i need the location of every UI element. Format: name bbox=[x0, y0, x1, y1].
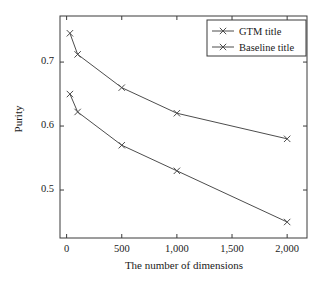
x-tick-label-4: 2,000 bbox=[267, 243, 307, 254]
y-tick-label-1: 0.6 bbox=[24, 119, 54, 130]
x-tick-label-1: 500 bbox=[102, 243, 142, 254]
y-axis-label: Purity bbox=[12, 89, 24, 149]
legend-label-0: GTM title bbox=[239, 26, 282, 37]
legend-label-1: Baseline title bbox=[239, 42, 294, 53]
x-tick-label-3: 1,500 bbox=[212, 243, 252, 254]
chart-figure: GTM titleBaseline title Purity The numbe… bbox=[0, 0, 333, 285]
x-tick-label-0: 0 bbox=[47, 243, 87, 254]
x-tick-label-2: 1,000 bbox=[157, 243, 197, 254]
chart-legend: GTM titleBaseline title bbox=[207, 20, 306, 56]
x-axis-label: The number of dimensions bbox=[60, 259, 308, 271]
y-tick-label-0: 0.5 bbox=[24, 183, 54, 194]
y-tick-label-2: 0.7 bbox=[24, 55, 54, 66]
